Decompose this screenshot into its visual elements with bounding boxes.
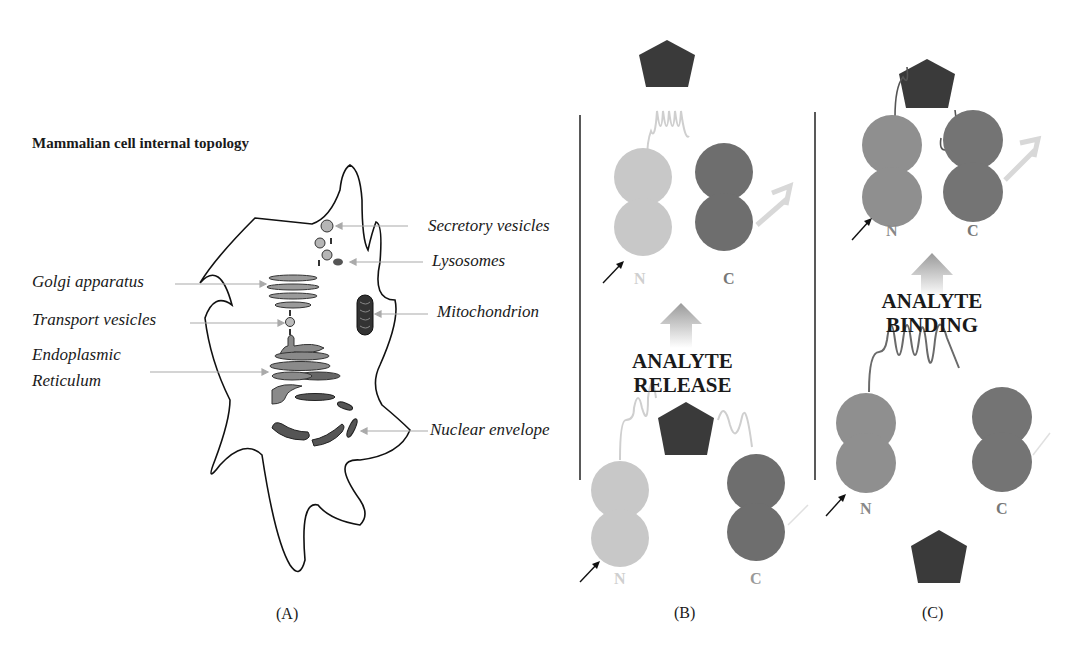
lysosome-icon (333, 259, 343, 266)
panel-b-caption: (B) (674, 604, 695, 622)
analyte-bound-pentagon-icon (899, 59, 955, 108)
c-terminus-label: C (750, 570, 762, 588)
c-terminus-label: C (967, 222, 979, 240)
label-nuclear-envelope: Nuclear envelope (430, 420, 549, 440)
secretory-vesicles-icon (315, 220, 333, 266)
n-domain-light (591, 461, 649, 567)
up-arrow-icon (660, 303, 702, 348)
n-domain-light (614, 148, 672, 256)
analyte-bound-pentagon-icon (658, 402, 714, 455)
emission-arrow-icon (757, 198, 788, 225)
c-domain-dark (943, 110, 1003, 222)
n-terminus-label: N (886, 222, 898, 240)
c-domain-dark (727, 454, 785, 561)
analyte-binding-label: ANALYTE BINDING (872, 289, 992, 337)
label-transport-vesicles: Transport vesicles (32, 310, 156, 330)
nuclear-envelope-icon (272, 394, 359, 447)
n-domain-mid (836, 393, 896, 493)
n-terminus-label: N (634, 270, 646, 288)
event-line-1: ANALYTE (872, 289, 992, 313)
c-domain-dark (972, 387, 1032, 492)
n-terminus-label: N (614, 570, 626, 588)
mitochondrion-icon (357, 295, 373, 335)
panel-a-title: Mammalian cell internal topology (32, 135, 249, 152)
golgi-apparatus-icon (267, 275, 319, 308)
label-reticulum: Reticulum (32, 371, 101, 391)
label-mitochondrion: Mitochondrion (437, 302, 539, 322)
label-endoplasmic: Endoplasmic (32, 345, 121, 365)
label-lysosomes: Lysosomes (432, 251, 505, 271)
n-domain-mid (862, 115, 922, 227)
c-terminus-label: C (996, 500, 1008, 518)
n-terminus-label: N (860, 500, 872, 518)
analyte-release-label: ANALYTE RELEASE (625, 349, 740, 397)
event-line-2: RELEASE (625, 373, 740, 397)
emission-arrow-weak-icon (788, 505, 808, 525)
label-golgi-apparatus: Golgi apparatus (32, 272, 144, 292)
label-secretory-vesicles: Secretory vesicles (428, 216, 550, 236)
emission-arrow-icon (1005, 150, 1035, 180)
analyte-pentagon-icon (639, 40, 695, 87)
panel-a-caption: (A) (276, 605, 298, 623)
panel-c-caption: (C) (922, 604, 943, 622)
event-line-1: ANALYTE (625, 349, 740, 373)
c-domain-dark (695, 143, 753, 251)
analyte-free-pentagon-icon (911, 530, 967, 583)
c-terminus-label: C (723, 270, 735, 288)
transport-vesicle-icon (286, 310, 295, 335)
label-pointer-arrows (150, 223, 428, 434)
event-line-2: BINDING (872, 313, 992, 337)
